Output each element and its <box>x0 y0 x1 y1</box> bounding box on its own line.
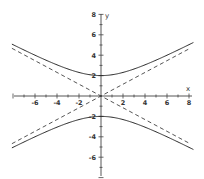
hyperbola-upper-branch <box>12 42 194 75</box>
y-axis-label: y <box>105 12 109 20</box>
y-tick-label: -2 <box>89 113 96 121</box>
axes <box>13 14 192 178</box>
y-tick-label: -4 <box>89 133 97 141</box>
x-tick-label: 4 <box>143 99 148 107</box>
y-tick-label: 6 <box>91 31 96 39</box>
x-tick-label: -2 <box>75 99 82 107</box>
hyperbola-lower-branch <box>12 116 194 149</box>
x-tick-label: -4 <box>53 99 61 107</box>
x-tick-label: 6 <box>165 99 170 107</box>
y-tick-label: 4 <box>91 52 96 60</box>
hyperbola-chart: -6-4-224688642-2-4-6xy <box>0 0 204 179</box>
x-tick-label: 8 <box>187 99 192 107</box>
x-tick-label: 2 <box>121 99 126 107</box>
y-tick-label: 8 <box>91 11 96 19</box>
y-tick-label: 2 <box>91 72 96 80</box>
x-axis-label: x <box>186 85 190 93</box>
y-tick-label: -6 <box>89 154 97 162</box>
x-tick-label: -6 <box>31 99 39 107</box>
tick-labels: -6-4-224688642-2-4-6xy <box>31 11 191 162</box>
